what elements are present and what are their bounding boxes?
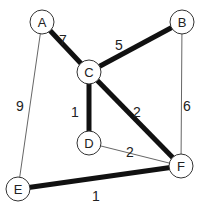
edge-b-f	[181, 22, 182, 166]
weighted-graph-diagram: 75122961 ABCDEF	[0, 0, 204, 210]
node-label: D	[84, 136, 93, 151]
node-label: C	[84, 65, 93, 80]
nodes: ABCDEF	[6, 10, 194, 201]
node-b: B	[170, 10, 194, 34]
edge-weight-label: 2	[133, 104, 141, 120]
node-label: A	[38, 15, 47, 30]
edges	[18, 22, 182, 189]
node-e: E	[6, 177, 30, 201]
edge-weight-label: 1	[71, 104, 79, 120]
edge-weight-label: 9	[16, 98, 24, 114]
node-a: A	[30, 10, 54, 34]
node-label: F	[177, 159, 185, 174]
edge-weight-label: 1	[92, 188, 100, 204]
edge-weight-label: 5	[115, 37, 123, 53]
node-c: C	[77, 60, 101, 84]
edge-weight-label: 6	[183, 98, 191, 114]
edge-weight-label: 7	[59, 32, 67, 48]
node-label: E	[14, 182, 23, 197]
edge-e-f	[18, 166, 181, 189]
node-d: D	[77, 131, 101, 155]
node-label: B	[178, 15, 187, 30]
edge-c-b	[89, 22, 182, 72]
node-f: F	[169, 154, 193, 178]
edge-weight-label: 2	[126, 144, 134, 160]
